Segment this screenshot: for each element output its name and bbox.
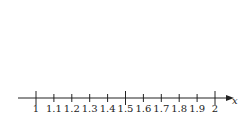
tick-label-group: 11.11.21.31.41.51.61.71.81.92 [33,103,218,114]
tick-label: 1 [33,103,39,114]
tick-label: 1.1 [46,103,62,114]
number-line-svg: 11.11.21.31.41.51.61.71.81.92 x [0,0,247,115]
tick-label: 1.4 [100,103,116,114]
tick-label: 1.7 [153,103,169,114]
tick-label: 1.2 [64,103,80,114]
number-line-diagram: 11.11.21.31.41.51.61.71.81.92 x [0,0,247,115]
axis-label-x: x [232,95,238,106]
tick-label: 1.8 [171,103,187,114]
tick-label: 1.9 [189,103,205,114]
tick-label: 2 [212,103,218,114]
tick-label: 1.3 [82,103,98,114]
tick-label: 1.5 [118,103,134,114]
tick-label: 1.6 [135,103,151,114]
